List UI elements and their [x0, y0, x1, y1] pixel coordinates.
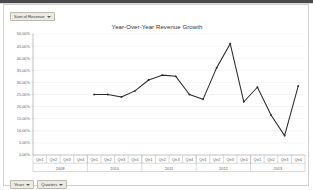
series-data-point[interactable]: [216, 67, 218, 69]
x-axis-tick-label: Qtr3: [118, 157, 126, 162]
series-data-point[interactable]: [161, 74, 163, 76]
x-axis-tick-label: Qtr1: [254, 157, 262, 162]
chevron-down-icon: [59, 184, 63, 186]
series-data-point[interactable]: [270, 114, 272, 116]
x-axis-tick-label: Qtr4: [77, 157, 85, 162]
x-axis-tick-label: Qtr3: [63, 157, 71, 162]
y-axis-tick-label: 10.00%: [17, 128, 31, 133]
chart-canvas: 50.00%45.00%40.00%35.00%30.00%25.00%20.0…: [4, 5, 310, 187]
x-axis-group-label: 2012: [219, 166, 228, 171]
x-axis-tick-label: Qtr2: [213, 157, 221, 162]
x-axis-tick-label: Qtr2: [50, 157, 58, 162]
y-axis-tick-label: 25.00%: [17, 92, 31, 97]
y-axis-tick-label: 45.00%: [17, 44, 31, 49]
series-data-point[interactable]: [297, 85, 299, 87]
y-axis-tick-label: 35.00%: [17, 68, 31, 73]
x-axis-tick-label: Qtr4: [240, 157, 248, 162]
chart-frame: Sum of Revenue Year-Over-Year Revenue Gr…: [3, 4, 309, 186]
y-axis-tick-label: 40.00%: [17, 56, 31, 61]
axis-field-button-quarters-label: Quarters: [41, 180, 57, 189]
y-axis-tick-label: 50.00%: [17, 31, 31, 36]
y-axis-tick-label: 0.00%: [19, 152, 31, 157]
chevron-down-icon: [26, 184, 30, 186]
series-data-point[interactable]: [202, 98, 204, 100]
y-axis-tick-label: 15.00%: [17, 116, 31, 121]
x-axis-tick-label: Qtr1: [36, 157, 44, 162]
x-axis-tick-label: Qtr4: [131, 157, 139, 162]
x-axis-tick-label: Qtr1: [90, 157, 98, 162]
series-data-point[interactable]: [120, 96, 122, 98]
x-axis-tick-label: Qtr3: [281, 157, 289, 162]
y-axis-tick-label: 5.00%: [19, 140, 31, 145]
axis-field-button-years-label: Years: [14, 180, 24, 189]
x-axis-tick-label: Qtr2: [104, 157, 112, 162]
x-axis-tick-label: Qtr4: [186, 157, 194, 162]
series-data-point[interactable]: [188, 94, 190, 96]
series-data-point[interactable]: [175, 75, 177, 77]
x-axis-tick-label: Qtr3: [172, 157, 180, 162]
series-data-point[interactable]: [107, 94, 109, 96]
x-axis-group-label: 2011: [165, 166, 173, 171]
series-data-point[interactable]: [148, 79, 150, 81]
series-data-point[interactable]: [284, 135, 286, 137]
y-axis-tick-label: 30.00%: [17, 80, 31, 85]
series-data-point[interactable]: [93, 94, 95, 96]
axis-field-button-group: Years Quarters: [10, 180, 67, 189]
x-axis-tick-label: Qtr4: [294, 157, 302, 162]
x-axis-tick-label: Qtr1: [145, 157, 153, 162]
x-axis-tick-label: Qtr2: [158, 157, 166, 162]
x-axis-tick-label: Qtr3: [226, 157, 234, 162]
series-data-point[interactable]: [134, 90, 136, 92]
plot-area: 50.00%45.00%40.00%35.00%30.00%25.00%20.0…: [4, 5, 310, 187]
axis-field-button-years[interactable]: Years: [10, 180, 34, 189]
axis-field-button-quarters[interactable]: Quarters: [37, 180, 67, 189]
series-data-point[interactable]: [229, 43, 231, 45]
series-data-point[interactable]: [256, 86, 258, 88]
x-axis-group-label: 2010: [110, 166, 119, 171]
series-line[interactable]: [94, 44, 298, 136]
y-axis-tick-label: 20.00%: [17, 104, 31, 109]
x-axis-tick-label: Qtr1: [199, 157, 207, 162]
series-data-point[interactable]: [243, 101, 245, 103]
pivotchart-screenshot: Sum of Revenue Year-Over-Year Revenue Gr…: [0, 0, 313, 190]
x-axis-tick-label: Qtr2: [267, 157, 275, 162]
x-axis-group-label: 2013: [273, 166, 282, 171]
x-axis-group-label: 2009: [56, 166, 65, 171]
